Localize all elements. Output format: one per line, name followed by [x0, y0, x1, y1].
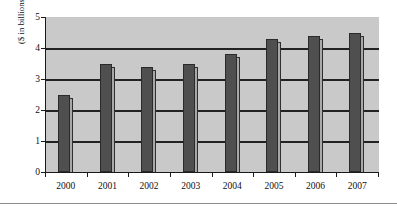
bar-shadow: [361, 36, 364, 173]
bar-shadow: [70, 98, 73, 173]
y-axis-title: ($ in billions): [14, 0, 28, 70]
y-axis-tick-mark: [41, 79, 45, 80]
y-axis-tick-label: 4: [28, 42, 40, 54]
x-axis-tick-label: 2006: [295, 180, 337, 192]
bar-shadow: [195, 67, 198, 173]
bar-chart-figure: ($ in billions) 543210 20002001200220032…: [0, 0, 397, 211]
bar-shadow: [278, 42, 281, 172]
x-axis-tick-label: 2005: [253, 180, 295, 192]
x-axis-tick-mark: [87, 173, 88, 177]
x-axis-tick-mark: [170, 173, 171, 177]
bar: [58, 95, 70, 173]
bar: [183, 64, 195, 173]
x-axis-tick-mark: [45, 173, 46, 177]
y-axis-tick-mark: [41, 48, 45, 49]
x-axis-tick-mark: [128, 173, 129, 177]
y-axis-tick-label: 0: [28, 166, 40, 178]
bar: [141, 67, 153, 172]
x-axis-tick-mark: [336, 173, 337, 177]
y-axis-tick-label: 5: [28, 11, 40, 23]
plot-area: [45, 17, 379, 173]
x-axis-tick-label: 2003: [170, 180, 212, 192]
bar: [349, 33, 361, 173]
bar: [308, 36, 320, 172]
y-axis-tick-mark: [41, 110, 45, 111]
x-axis-tick-label: 2002: [128, 180, 170, 192]
x-axis-tick-mark: [212, 173, 213, 177]
x-axis-tick-label: 2000: [45, 180, 87, 192]
bar-shadow: [320, 39, 323, 172]
gridline: [46, 110, 379, 112]
bar: [225, 54, 237, 172]
y-axis-tick-label: 1: [28, 135, 40, 147]
x-axis-tick-mark: [378, 173, 379, 177]
x-axis-tick-mark: [295, 173, 296, 177]
x-axis-tick-label: 2001: [86, 180, 128, 192]
bar-shadow: [112, 67, 115, 173]
gridline: [46, 48, 379, 50]
bar: [100, 64, 112, 173]
y-axis-tick-labels: 543210: [28, 11, 40, 178]
y-axis-tick-mark: [41, 141, 45, 142]
bar: [266, 39, 278, 172]
x-axis-tick-label: 2004: [211, 180, 253, 192]
x-axis-tick-mark: [253, 173, 254, 177]
x-axis-tick-label: 2007: [336, 180, 378, 192]
bar-shadow: [153, 70, 156, 172]
y-axis-tick-mark: [41, 17, 45, 18]
bar-shadow: [237, 57, 240, 172]
bottom-divider: [0, 203, 397, 204]
gridline: [46, 141, 379, 143]
gridline: [46, 79, 379, 81]
y-axis-tick-label: 3: [28, 73, 40, 85]
y-axis-tick-label: 2: [28, 104, 40, 116]
